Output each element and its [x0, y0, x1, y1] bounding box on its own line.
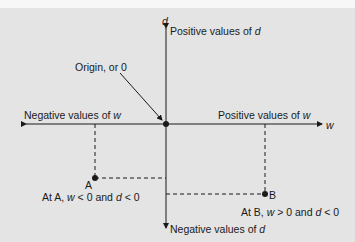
point-a-caption: At A, w < 0 and d < 0 — [42, 192, 140, 203]
point-b-label: B — [269, 190, 276, 201]
origin-dot — [163, 121, 169, 127]
positive-w-label: Positive values of w — [218, 110, 310, 121]
origin-pointer-arrow — [120, 73, 162, 120]
point-a-dot — [92, 175, 98, 181]
negative-d-label: Negative values of d — [170, 224, 265, 235]
origin-label: Origin, or 0 — [75, 62, 127, 73]
point-b-caption: At B, w > 0 and d < 0 — [241, 207, 339, 218]
d-axis-label: d — [162, 16, 168, 27]
negative-w-label: Negative values of w — [24, 110, 121, 121]
point-a-label: A — [85, 180, 92, 191]
point-b-dot — [262, 191, 268, 197]
positive-d-label: Positive values of d — [170, 26, 260, 37]
w-axis-label: w — [326, 120, 334, 131]
